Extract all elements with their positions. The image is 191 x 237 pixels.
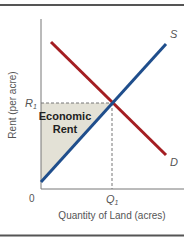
economic-rent-label-2: Rent: [53, 123, 78, 135]
r1-label: R1: [25, 97, 37, 110]
supply-label: S: [170, 28, 178, 40]
economic-rent-chart: S D R1 Q1 0 Economic Rent Quantity of La…: [0, 0, 191, 237]
x-axis-title: Quantity of Land (acres): [58, 210, 165, 221]
economic-rent-label-1: Economic: [39, 110, 92, 122]
y-axis-title: Rent (per acre): [7, 71, 18, 138]
q1-label: Q1: [106, 193, 119, 206]
demand-label: D: [170, 156, 178, 168]
origin-label: 0: [29, 193, 35, 204]
